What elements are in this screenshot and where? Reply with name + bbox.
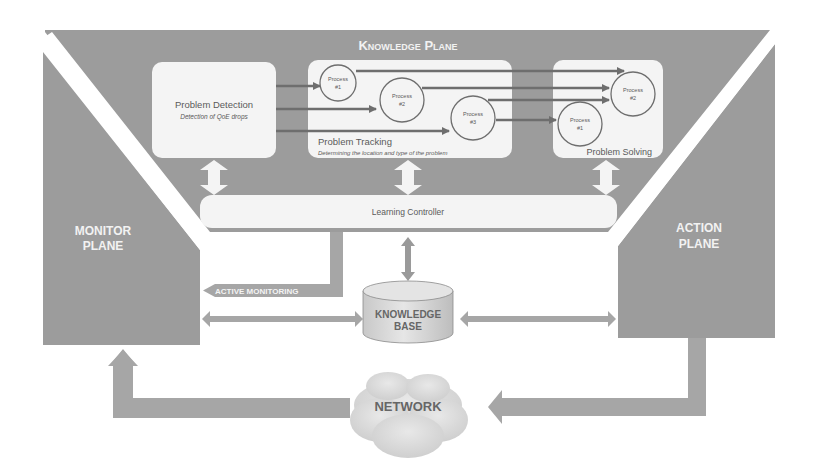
problem-detection-box: Problem Detection Detection of QoE drops — [152, 62, 276, 158]
kb-action-arrow — [460, 311, 616, 327]
network-to-monitor-arrow — [108, 349, 350, 418]
tracking-process-3: Process #3 — [451, 96, 495, 140]
network-cloud: NETWORK — [350, 372, 468, 458]
solving-process-1-number: #1 — [577, 125, 583, 131]
problem-detection-subtitle: Detection of QoE drops — [180, 113, 248, 121]
learning-controller: Learning Controller — [200, 195, 617, 228]
knowledge-base-cylinder: KNOWLEDGE BASE — [363, 281, 453, 343]
knowledge-plane-title: Knowledge Plane — [358, 38, 457, 53]
tracking-process-3-label: Process — [463, 111, 483, 117]
action-to-network-arrow — [488, 338, 706, 424]
learning-controller-label: Learning Controller — [372, 207, 444, 217]
solving-process-2: Process #2 — [611, 72, 655, 116]
monitor-plane-label-line1: MONITOR — [75, 224, 132, 238]
network-label: NETWORK — [374, 399, 442, 414]
monitor-plane-label-line2: PLANE — [83, 239, 124, 253]
solving-process-2-label: Process — [623, 87, 643, 93]
controller-kb-arrow — [401, 237, 415, 281]
tracking-process-1-number: #1 — [335, 84, 341, 90]
knowledge-base-line1: KNOWLEDGE — [375, 309, 441, 320]
tracking-process-2-label: Process — [392, 93, 412, 99]
tracking-process-2-number: #2 — [399, 101, 405, 107]
monitor-kb-arrow — [202, 311, 363, 327]
tracking-process-1-label: Process — [328, 76, 348, 82]
tracking-process-2: Process #2 — [380, 78, 424, 122]
solving-process-1: Process #1 — [558, 102, 602, 146]
active-monitoring-connector: ACTIVE MONITORING — [203, 232, 343, 297]
tracking-process-1: Process #1 — [320, 65, 356, 101]
active-monitoring-label: ACTIVE MONITORING — [215, 287, 298, 296]
action-plane-label-line2: PLANE — [679, 237, 720, 251]
problem-tracking-subtitle: Determining the location and type of the… — [318, 150, 447, 156]
autonomic-architecture-diagram: Knowledge Plane Problem Detection Detect… — [0, 0, 819, 472]
knowledge-base-line2: BASE — [394, 321, 422, 332]
tracking-process-3-number: #3 — [470, 119, 476, 125]
solving-process-2-number: #2 — [630, 95, 636, 101]
action-plane-label-line1: ACTION — [676, 221, 722, 235]
problem-solving-title: Problem Solving — [586, 147, 652, 157]
problem-tracking-title: Problem Tracking — [318, 136, 392, 147]
solving-process-1-label: Process — [570, 117, 590, 123]
problem-detection-title: Problem Detection — [175, 99, 253, 110]
